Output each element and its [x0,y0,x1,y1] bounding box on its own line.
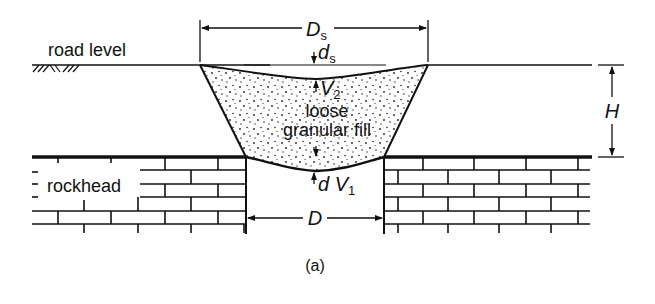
crown-hole-diagram: Ds ds V2 loose granular fill d V1 D H ro… [0,0,655,304]
dV1-label: d V1 [318,173,355,198]
Ds-label: Ds [306,18,327,43]
road-level-label: road level [48,40,126,60]
rockhead-label: rockhead [47,176,121,196]
loose-label: loose [305,101,348,121]
H-label: H [605,100,620,122]
brick-rock-right [384,157,590,233]
ground-hatch-icon [33,65,79,72]
granular-fill-label: granular fill [283,120,371,140]
D-label: D [308,207,322,229]
figure-caption: (a) [305,257,325,274]
ds-label: ds [318,41,336,66]
